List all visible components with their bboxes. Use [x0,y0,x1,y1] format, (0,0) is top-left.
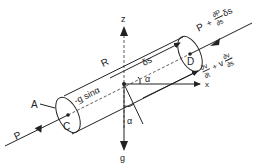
delta-s-label: δs [140,54,153,67]
z-axis-label: z [121,14,126,24]
center-d-label: D [187,56,194,67]
svg-text:δs: δs [221,5,234,18]
area-leader-line [40,104,55,108]
alpha-top-label: α [145,74,150,84]
gravity-label: g [120,153,125,163]
area-label: A [31,99,38,110]
gravity-component: -g sinα [72,85,101,106]
fluid-element-diagram: z R C D A -g sinα δs x α [0,0,258,164]
acceleration-expression: ∂v ∂t + v ∂v ∂s [199,51,236,80]
x-axis-label: x [205,80,209,89]
pressure-in-label: P [12,129,23,142]
alpha-top-arc [138,77,140,84]
svg-text:P: P [194,21,205,34]
center-c-label: C [63,121,70,132]
svg-text:+: + [205,17,214,28]
pressure-out-expression: P + ∂P ∂s δs [193,3,236,35]
svg-text:∂t: ∂t [203,71,211,80]
alpha-bottom-label: α [127,116,132,126]
svg-text:-g sinα: -g sinα [72,85,101,106]
radius-label: R [99,56,110,69]
